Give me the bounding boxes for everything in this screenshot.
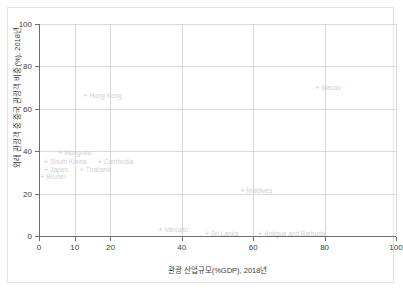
plus-marker-icon: + bbox=[239, 188, 245, 194]
x-axis-tick-label: 10 bbox=[70, 243, 79, 252]
plot-area: +Hong Kong+Macau+Mongolia+South Korea+Ca… bbox=[39, 24, 396, 236]
scatter-point-label: Macau bbox=[321, 84, 341, 91]
plus-marker-icon: + bbox=[79, 167, 85, 173]
gridline-vertical bbox=[253, 24, 254, 236]
plus-marker-icon: + bbox=[97, 159, 103, 165]
gridline-horizontal bbox=[39, 66, 396, 67]
scatter-point-label: Thailand bbox=[86, 166, 111, 173]
y-axis-tick-label: 80 bbox=[10, 62, 32, 71]
x-axis-tick bbox=[253, 237, 254, 241]
x-axis-tick bbox=[396, 237, 397, 241]
y-axis-tick bbox=[35, 109, 39, 110]
plus-marker-icon: + bbox=[82, 93, 88, 99]
gridline-horizontal bbox=[39, 109, 396, 110]
y-axis-tick bbox=[35, 151, 39, 152]
y-axis-tick bbox=[35, 194, 39, 195]
plus-marker-icon: + bbox=[40, 174, 46, 180]
gridline-vertical bbox=[182, 24, 183, 236]
x-axis-tick-label: 0 bbox=[37, 243, 41, 252]
x-axis-tick bbox=[182, 237, 183, 241]
x-axis-tick bbox=[75, 237, 76, 241]
y-axis-line bbox=[39, 24, 40, 237]
x-axis-tick-label: 20 bbox=[106, 243, 115, 252]
gridline-horizontal bbox=[39, 194, 396, 195]
gridline-vertical bbox=[75, 24, 76, 236]
x-axis-tick-label: 40 bbox=[177, 243, 186, 252]
x-axis-tick-label: 80 bbox=[320, 243, 329, 252]
gridline-horizontal bbox=[39, 151, 396, 152]
scatter-point-label: Hong Kong bbox=[89, 92, 122, 99]
scatter-point-label: Brunei bbox=[47, 173, 66, 180]
scatter-point-label: Mongolia bbox=[64, 149, 90, 156]
y-axis-tick bbox=[35, 24, 39, 25]
plus-marker-icon: + bbox=[314, 85, 320, 91]
scatter-point-label: Vanuatu bbox=[164, 226, 188, 233]
y-axis-tick bbox=[35, 236, 39, 237]
x-axis-tick bbox=[39, 237, 40, 241]
y-axis-tick-label: 40 bbox=[10, 147, 32, 156]
plus-marker-icon: + bbox=[157, 227, 163, 233]
scatter-point-label: Cambodia bbox=[104, 158, 134, 165]
plus-marker-icon: + bbox=[57, 150, 63, 156]
y-axis-tick-label: 60 bbox=[10, 104, 32, 113]
gridline-horizontal bbox=[39, 24, 396, 25]
y-axis-tick bbox=[35, 66, 39, 67]
x-axis-line bbox=[39, 236, 396, 237]
gridline-vertical bbox=[325, 24, 326, 236]
scatter-point-label: South Korea bbox=[50, 158, 86, 165]
scatter-point-label: Maldives bbox=[246, 187, 272, 194]
gridline-vertical bbox=[396, 24, 397, 236]
x-axis-tick-label: 100 bbox=[389, 243, 402, 252]
x-axis-tick bbox=[325, 237, 326, 241]
x-axis-title: 관광 산업규모(%GDP), 2018년 bbox=[39, 264, 396, 275]
plus-marker-icon: + bbox=[43, 159, 49, 165]
gridline-vertical bbox=[110, 24, 111, 236]
x-axis-tick bbox=[110, 237, 111, 241]
y-axis-tick-label: 100 bbox=[10, 20, 32, 29]
y-axis-tick-label: 0 bbox=[10, 232, 32, 241]
y-axis-tick-label: 20 bbox=[10, 189, 32, 198]
x-axis-tick-label: 60 bbox=[249, 243, 258, 252]
